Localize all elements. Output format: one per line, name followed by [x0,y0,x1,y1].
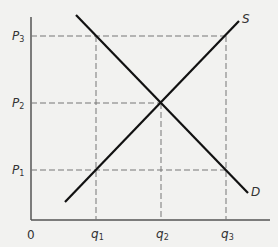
label-p2: P2 [12,97,24,111]
label-p3-sub: 3 [19,35,24,44]
label-q3-base: q [221,227,229,241]
supply-label: S [242,13,250,25]
label-q2: q2 [156,228,169,242]
origin-label: 0 [27,229,35,241]
demand-curve [76,15,248,193]
label-q3: q3 [221,228,234,242]
supply-curve [65,21,239,202]
label-p1: P1 [12,164,24,178]
label-q1-sub: 1 [99,233,104,242]
diagram-graphics [0,0,278,247]
label-q3-sub: 3 [229,233,234,242]
label-q1: q1 [91,228,104,242]
supply-demand-diagram: P3 P2 P1 0 q1 q2 q3 S D [0,0,278,247]
label-q2-base: q [156,227,164,241]
label-p1-sub: 1 [19,169,24,178]
label-p2-sub: 2 [19,102,24,111]
demand-label: D [251,186,260,198]
label-p3: P3 [12,30,24,44]
label-q1-base: q [91,227,99,241]
label-q2-sub: 2 [164,233,169,242]
